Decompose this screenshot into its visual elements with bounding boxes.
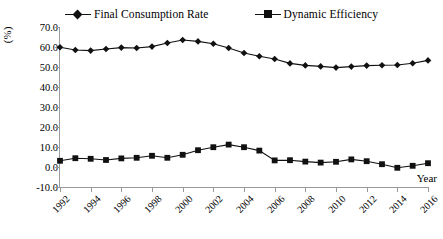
data-point: [118, 156, 124, 162]
data-point: [409, 60, 416, 67]
data-point: [164, 40, 171, 47]
data-point: [72, 155, 78, 161]
data-point: [241, 144, 247, 150]
data-point: [333, 64, 340, 71]
data-point: [103, 157, 109, 163]
data-point: [394, 165, 400, 171]
data-point: [241, 50, 248, 57]
data-point: [195, 147, 201, 153]
data-point: [256, 53, 263, 60]
data-point: [180, 152, 186, 158]
x-axis-tick-mark: [275, 187, 276, 192]
y-axis-tick-label: 50.0: [18, 62, 58, 73]
x-axis-tick-mark: [244, 187, 245, 192]
data-point: [210, 144, 216, 150]
data-point: [103, 46, 110, 53]
diamond-marker-icon: [65, 9, 91, 19]
data-point: [118, 44, 125, 51]
data-point: [149, 153, 155, 159]
data-point: [226, 142, 232, 148]
data-point: [287, 157, 293, 163]
data-point: [134, 155, 140, 161]
data-point: [302, 62, 309, 69]
x-axis-tick-mark: [305, 187, 306, 192]
data-point: [410, 163, 416, 169]
x-axis-tick-label: 2012: [349, 193, 378, 222]
data-point: [364, 158, 370, 164]
data-point: [425, 57, 432, 64]
x-axis-tick-mark: [152, 187, 153, 192]
x-axis-tick-mark: [367, 187, 368, 192]
data-point: [287, 60, 294, 67]
y-axis-tick-label: 60.0: [18, 42, 58, 53]
x-axis-tick-mark: [428, 187, 429, 192]
x-axis-tick-label: 2010: [319, 193, 348, 222]
x-axis-tick-mark: [121, 187, 122, 192]
data-point: [302, 159, 308, 165]
data-point: [210, 41, 217, 48]
x-axis-tick-mark: [91, 187, 92, 192]
x-axis-tick-label: 2002: [196, 193, 225, 222]
x-axis-tick-label: 2000: [165, 193, 194, 222]
chart-legend: Final Consumption Rate Dynamic Efficienc…: [0, 4, 443, 24]
data-point: [225, 45, 232, 52]
square-marker-icon: [255, 9, 281, 19]
data-point: [317, 63, 324, 70]
x-axis-tick-mark: [60, 187, 61, 192]
x-axis-tick-label: 1996: [104, 193, 133, 222]
x-axis-tick-label: 2014: [380, 193, 409, 222]
plot-area: [60, 27, 428, 187]
y-axis-title: (%): [2, 26, 13, 43]
data-point: [348, 63, 355, 70]
x-axis-tick-label: 1994: [73, 193, 102, 222]
data-point: [379, 62, 386, 69]
data-point: [318, 160, 324, 166]
x-axis-tick-mark: [336, 187, 337, 192]
y-axis-tick-label: 0.0: [18, 162, 58, 173]
legend-label: Dynamic Efficiency: [284, 8, 379, 20]
data-point: [256, 148, 262, 154]
data-point: [57, 158, 63, 164]
x-axis-tick-mark: [213, 187, 214, 192]
legend-label: Final Consumption Rate: [94, 8, 209, 20]
data-point: [164, 155, 170, 161]
y-axis-tick-label: 10.0: [18, 142, 58, 153]
data-point: [394, 62, 401, 69]
data-point: [363, 62, 370, 69]
chart-container: Final Consumption Rate Dynamic Efficienc…: [0, 0, 443, 239]
legend-entry-dynamic-efficiency: Dynamic Efficiency: [255, 8, 379, 20]
data-point: [133, 45, 140, 52]
x-axis-tick-label: 2006: [257, 193, 286, 222]
legend-entry-final-consumption-rate: Final Consumption Rate: [65, 8, 209, 20]
x-axis-tick-mark: [397, 187, 398, 192]
y-axis-tick-label: 20.0: [18, 122, 58, 133]
series-final-consumption-rate: [57, 37, 432, 71]
data-point: [72, 47, 79, 54]
y-axis-tick-label: -10.0: [18, 182, 58, 193]
data-point: [379, 161, 385, 167]
data-point: [87, 47, 94, 54]
x-axis-tick-mark: [183, 187, 184, 192]
series-dynamic-efficiency: [57, 142, 431, 171]
data-point: [272, 158, 278, 164]
y-axis-tick-label: 70.0: [18, 22, 58, 33]
x-axis-tick-label: 1992: [43, 193, 72, 222]
x-axis-tick-label: 1998: [135, 193, 164, 222]
data-point: [179, 37, 186, 44]
data-point: [333, 159, 339, 165]
x-axis-tick-label: 2008: [288, 193, 317, 222]
data-point: [195, 38, 202, 45]
x-axis-tick-label: 2016: [411, 193, 440, 222]
x-axis-tick-label: 2004: [227, 193, 256, 222]
data-point: [88, 156, 94, 162]
data-point: [149, 43, 156, 50]
y-axis-tick-label: 30.0: [18, 102, 58, 113]
data-point: [271, 56, 278, 63]
data-point: [348, 157, 354, 163]
y-axis-tick-label: 40.0: [18, 82, 58, 93]
data-point: [425, 160, 431, 166]
